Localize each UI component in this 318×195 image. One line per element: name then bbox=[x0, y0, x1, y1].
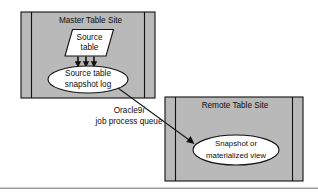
queue-label-product: Oracle9 bbox=[114, 106, 143, 115]
diagram-canvas: Master Table Site Source table bbox=[0, 0, 318, 195]
remote-snapshot-label-line1: Snapshot or bbox=[215, 139, 257, 148]
snapshot-log-label-line1: Source table bbox=[65, 69, 111, 78]
remote-table-site-title: Remote Table Site bbox=[202, 101, 269, 110]
master-table-site-title: Master Table Site bbox=[59, 16, 123, 25]
queue-label-line2: job process queue bbox=[95, 117, 163, 126]
replication-diagram: Master Table Site Source table bbox=[0, 0, 318, 195]
master-table-site-group: Master Table Site Source table bbox=[21, 12, 155, 98]
queue-label-line1: Oracle9i bbox=[114, 106, 145, 115]
remote-table-site-group: Remote Table Site Snapshot or materializ… bbox=[165, 97, 303, 181]
source-table-label-line1: Source bbox=[77, 33, 103, 42]
source-table-label-line2: table bbox=[81, 43, 99, 52]
remote-snapshot-label-line2: materialized view bbox=[206, 151, 266, 160]
snapshot-log-label-line2: snapshot log bbox=[65, 80, 112, 89]
queue-label-product-suffix: i bbox=[142, 106, 144, 115]
